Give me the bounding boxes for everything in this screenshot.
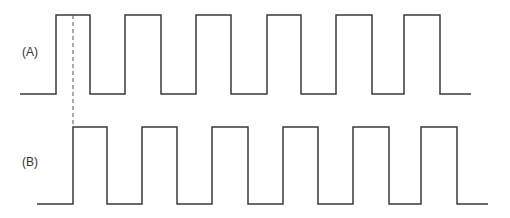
waveform-a xyxy=(20,15,471,94)
signal-label-a: (A) xyxy=(22,45,38,59)
waveform-b xyxy=(37,127,488,204)
signal-label-b: (B) xyxy=(22,155,38,169)
timing-diagram xyxy=(0,0,510,218)
